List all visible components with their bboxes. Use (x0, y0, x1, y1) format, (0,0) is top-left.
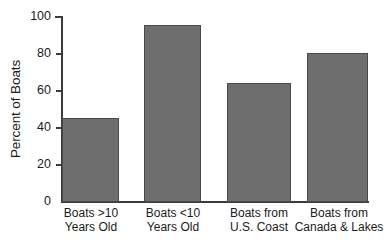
y-tick-label-80: 80 (5, 47, 51, 59)
x-tick-label-line2: Years Old (45, 220, 137, 234)
bar-chart: Percent of Boats 0 20 40 60 80 100 Boats… (0, 0, 388, 240)
bar-boats-from-canada-and-lakes[interactable] (307, 53, 368, 202)
bar-boats-over-10-years[interactable] (62, 118, 119, 202)
plot-area (61, 16, 368, 202)
x-tick-label-boats-over-10-years: Boats >10 Years Old (45, 206, 137, 234)
x-tick-label-line1: Boats >10 (45, 206, 137, 220)
bar-boats-from-us-coast[interactable] (227, 83, 291, 202)
x-tick-label-line1: Boats <10 (127, 206, 219, 220)
bar-boats-under-10-years[interactable] (144, 25, 201, 202)
y-tick-label-20: 20 (5, 158, 51, 170)
y-axis-title: Percent of Boats (7, 16, 25, 202)
x-tick-label-boats-from-canada-and-lakes: Boats from Canada & Lakes (291, 206, 387, 234)
x-tick-label-line1: Boats from (291, 206, 387, 220)
x-tick-label-boats-under-10-years: Boats <10 Years Old (127, 206, 219, 234)
y-tick-label-60: 60 (5, 84, 51, 96)
x-tick-label-line2: Years Old (127, 220, 219, 234)
y-tick-label-100: 100 (5, 10, 51, 22)
y-tick-label-40: 40 (5, 121, 51, 133)
x-tick-label-line2: Canada & Lakes (291, 220, 387, 234)
